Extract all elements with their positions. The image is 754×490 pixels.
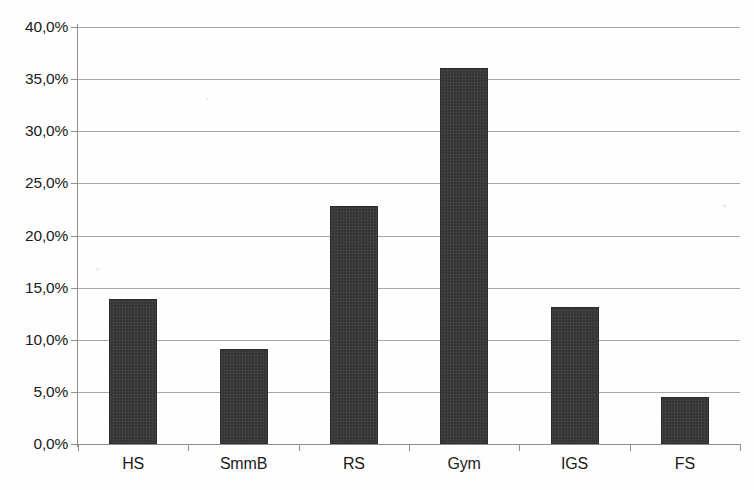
y-tick-mark [71, 131, 78, 132]
x-separator-tick [299, 444, 300, 451]
x-separator-tick [740, 444, 741, 451]
gridline [78, 288, 740, 289]
bar-smmb [220, 349, 268, 444]
x-tick-label-gym: Gym [448, 455, 481, 473]
x-tick-label-smmb: SmmB [220, 455, 267, 473]
y-tick-label: 40,0% [25, 18, 68, 36]
gridline [78, 131, 740, 132]
gridline [78, 392, 740, 393]
gridline [78, 236, 740, 237]
gridline [78, 340, 740, 341]
x-tick-label-fs: FS [675, 455, 695, 473]
x-separator-tick [409, 444, 410, 451]
gridline [78, 27, 740, 28]
y-tick-label: 5,0% [33, 383, 68, 401]
x-separator-tick [519, 444, 520, 451]
gridline [78, 183, 740, 184]
bar-rs [330, 206, 378, 444]
y-tick-mark [71, 340, 78, 341]
bar-fs [661, 397, 709, 444]
y-tick-label: 25,0% [25, 174, 68, 192]
y-tick-mark [71, 79, 78, 80]
y-tick-mark [71, 392, 78, 393]
y-tick-mark [71, 288, 78, 289]
bar-igs [551, 307, 599, 444]
x-tick-label-hs: HS [122, 455, 144, 473]
bar-gym [440, 68, 488, 444]
y-tick-label: 30,0% [25, 122, 68, 140]
x-separator-tick [78, 444, 79, 451]
y-tick-label: 10,0% [25, 331, 68, 349]
x-separator-tick [188, 444, 189, 451]
y-tick-mark [71, 27, 78, 28]
bar-hs [109, 299, 157, 444]
y-tick-mark [71, 183, 78, 184]
y-tick-label: 20,0% [25, 227, 68, 245]
x-tick-label-rs: RS [343, 455, 365, 473]
y-tick-label: 0,0% [33, 435, 68, 453]
y-tick-label: 35,0% [25, 70, 68, 88]
plot-area [78, 27, 740, 444]
y-tick-label: 15,0% [25, 279, 68, 297]
y-tick-mark [71, 444, 78, 445]
y-tick-mark [71, 236, 78, 237]
x-tick-label-igs: IGS [561, 455, 588, 473]
x-separator-tick [630, 444, 631, 451]
gridline [78, 79, 740, 80]
bar-chart-figure: 0,0%5,0%10,0%15,0%20,0%25,0%30,0%35,0%40… [0, 0, 754, 490]
